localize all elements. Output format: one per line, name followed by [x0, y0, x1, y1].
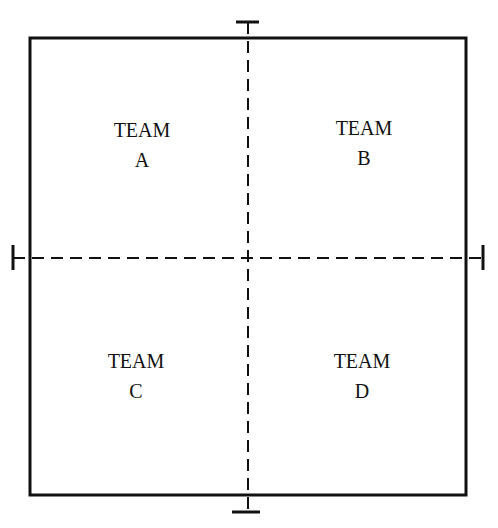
field-diagram	[0, 0, 498, 528]
team-d-word: TEAM	[302, 346, 422, 376]
team-a-letter: A	[82, 145, 202, 175]
team-a-word: TEAM	[82, 115, 202, 145]
team-b-letter: B	[304, 143, 424, 173]
team-b-word: TEAM	[304, 113, 424, 143]
team-d-letter: D	[302, 376, 422, 406]
team-a-label: TEAM A	[82, 115, 202, 175]
team-b-label: TEAM B	[304, 113, 424, 173]
team-c-letter: C	[76, 376, 196, 406]
team-c-label: TEAM C	[76, 346, 196, 406]
team-d-label: TEAM D	[302, 346, 422, 406]
team-c-word: TEAM	[76, 346, 196, 376]
